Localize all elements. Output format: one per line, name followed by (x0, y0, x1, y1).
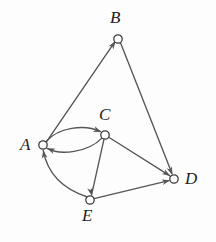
vertex-label-a: A (20, 136, 30, 153)
vertex-label-e: E (82, 207, 92, 224)
vertex-node-e[interactable] (86, 196, 94, 204)
edge-e-to-d (94, 181, 169, 199)
edge-e-to-a (43, 150, 87, 197)
edge-a-to-b (47, 43, 115, 142)
edge-c-to-a (47, 138, 101, 152)
vertex-node-c[interactable] (101, 131, 109, 139)
directed-graph-figure: ABCDE (0, 0, 216, 242)
vertex-label-d: D (185, 170, 197, 187)
vertex-label-c: C (99, 106, 110, 123)
vertex-node-d[interactable] (170, 175, 178, 183)
vertex-node-a[interactable] (39, 141, 47, 149)
vertex-label-b: B (110, 9, 120, 26)
edge-b-to-d (121, 43, 172, 173)
vertex-node-b[interactable] (114, 35, 122, 43)
edge-c-to-e (92, 139, 104, 195)
